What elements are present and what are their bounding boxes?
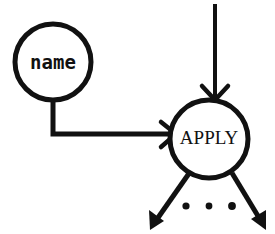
ellipsis-dot-1 [182, 202, 189, 209]
node-name-label: name [30, 51, 76, 73]
diagram-canvas: name APPLY [0, 0, 275, 234]
node-apply[interactable]: APPLY [170, 100, 248, 178]
ellipsis-dot-3 [228, 202, 236, 210]
node-name[interactable]: name [15, 24, 91, 100]
ellipsis-dot-2 [206, 203, 213, 210]
node-apply-label: APPLY [180, 127, 239, 148]
apply-node-diagram: name APPLY [0, 0, 275, 234]
